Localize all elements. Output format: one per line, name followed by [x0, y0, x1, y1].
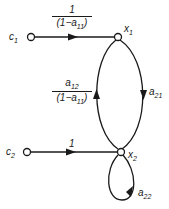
label-x2: x2 [128, 150, 137, 162]
label-c1: c1 [9, 32, 18, 44]
edge-x1-x2 [120, 40, 143, 149]
arrowhead-icon [68, 34, 78, 41]
gain-c1-x1: 1 (1−a11) [52, 5, 92, 30]
arrowhead-icon [66, 149, 76, 156]
gain-c2-x2: 1 [69, 139, 75, 149]
node-x2 [118, 149, 125, 156]
gain-x1-x2: a21 [149, 87, 162, 99]
gain-x2-self: a22 [138, 188, 151, 200]
arrowhead-icon [140, 90, 147, 100]
arrowhead-icon [126, 186, 133, 197]
label-x1: x1 [124, 24, 133, 36]
edge-x2-x1 [97, 40, 118, 149]
arrowhead-icon [93, 89, 100, 99]
gain-x2-x1: a12 (1−a11) [52, 78, 92, 105]
node-x1 [115, 34, 122, 41]
label-c2: c2 [6, 147, 15, 159]
node-c2 [24, 149, 31, 156]
node-c1 [28, 34, 35, 41]
